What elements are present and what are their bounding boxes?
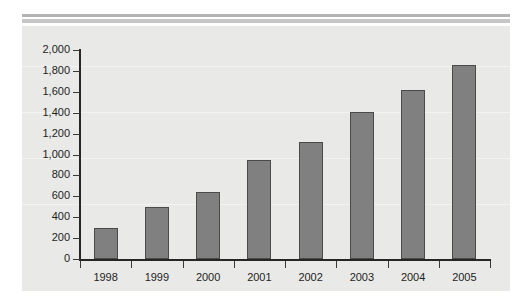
y-axis-tick bbox=[73, 155, 80, 156]
header-divider-rule bbox=[22, 14, 510, 23]
background-band bbox=[22, 112, 510, 113]
y-axis-tick-label-text: 400 bbox=[22, 211, 70, 222]
y-axis-tick-label: 2,000 bbox=[22, 44, 70, 55]
y-axis-tick-label-text: 200 bbox=[22, 232, 70, 243]
y-axis-tick bbox=[73, 92, 80, 93]
y-axis-tick bbox=[73, 196, 80, 197]
y-axis-tick-label-text: 1,000 bbox=[22, 149, 70, 160]
x-axis-tick bbox=[183, 261, 184, 268]
y-axis-tick-label: 200 bbox=[22, 232, 70, 243]
y-axis-tick bbox=[73, 217, 80, 218]
y-axis-tick-label: 1,600 bbox=[22, 86, 70, 97]
chart-panel: 02004006008001,0001,2001,4001,6001,8002,… bbox=[22, 26, 510, 291]
y-axis-tick-label-text: 1,800 bbox=[22, 65, 70, 76]
bar-chart-figure: 02004006008001,0001,2001,4001,6001,8002,… bbox=[0, 0, 514, 308]
x-axis-tick-label: 2005 bbox=[434, 271, 494, 283]
y-axis-tick bbox=[73, 134, 80, 135]
y-axis-tick bbox=[73, 175, 80, 176]
x-axis-tick bbox=[285, 261, 286, 268]
bar-1999 bbox=[145, 207, 169, 259]
y-axis-tick-label: 600 bbox=[22, 190, 70, 201]
y-axis-tick-label-text: 1,600 bbox=[22, 86, 70, 97]
y-axis-tick bbox=[73, 238, 80, 239]
y-axis-tick-label-text: 2,000 bbox=[22, 44, 70, 55]
y-axis-tick-label-text: 0 bbox=[22, 253, 70, 264]
x-axis-tick bbox=[439, 261, 440, 268]
bar-1998 bbox=[94, 228, 118, 259]
y-axis-tick bbox=[73, 113, 80, 114]
bar-2004 bbox=[401, 90, 425, 259]
y-axis-tick bbox=[73, 71, 80, 72]
x-axis-tick bbox=[131, 261, 132, 268]
y-axis-tick-label: 1,000 bbox=[22, 149, 70, 160]
background-band bbox=[22, 66, 510, 67]
y-axis-tick-label-text: 1,400 bbox=[22, 107, 70, 118]
bar-2000 bbox=[196, 192, 220, 259]
y-axis-tick-label-text: 800 bbox=[22, 169, 70, 180]
y-axis-tick-label: 1,200 bbox=[22, 128, 70, 139]
y-axis-tick-label: 400 bbox=[22, 211, 70, 222]
x-axis-tick bbox=[490, 261, 491, 268]
y-axis-tick-label-text: 600 bbox=[22, 190, 70, 201]
y-axis-tick-label-text: 1,200 bbox=[22, 128, 70, 139]
y-axis-tick bbox=[73, 50, 80, 51]
y-axis-tick-label: 0 bbox=[22, 253, 70, 264]
x-axis-tick bbox=[336, 261, 337, 268]
x-axis-tick bbox=[388, 261, 389, 268]
y-axis-tick-label: 1,800 bbox=[22, 65, 70, 76]
bar-2002 bbox=[299, 142, 323, 259]
x-axis-tick bbox=[80, 261, 81, 268]
bar-2005 bbox=[452, 65, 476, 259]
bar-2003 bbox=[350, 112, 374, 259]
y-axis-tick-label: 800 bbox=[22, 169, 70, 180]
bar-2001 bbox=[247, 160, 271, 259]
y-axis-tick bbox=[73, 259, 80, 260]
divider-line-lower bbox=[22, 19, 510, 23]
x-axis-tick bbox=[234, 261, 235, 268]
y-axis-tick-label: 1,400 bbox=[22, 107, 70, 118]
